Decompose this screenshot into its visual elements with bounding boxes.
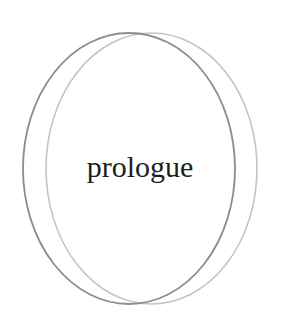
wordmark-text: prologue	[87, 150, 194, 184]
logo-wordmark: prologue	[0, 150, 282, 184]
logo-canvas: prologue	[0, 0, 282, 332]
